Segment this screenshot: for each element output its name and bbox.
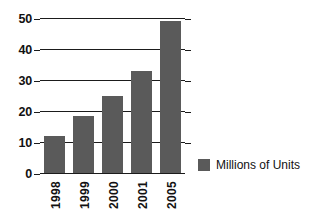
y-axis-tick-label: 50 [18,12,32,26]
bar-2001 [131,71,152,173]
y-axis-tick-label: 30 [18,74,32,88]
y-axis-tick-label: 20 [18,105,32,119]
y-axis-tick-stub [185,19,191,20]
x-axis-label-2005: 2005 [165,181,179,209]
legend-swatch-icon [198,159,210,171]
y-axis-tick-stub [185,143,191,144]
plot-area: 01020304050 19981999200020012005 [40,14,185,177]
y-axis-tick-stub [185,112,191,113]
bar-series [40,14,185,177]
x-axis-label-2001: 2001 [136,181,150,209]
bar-2005 [160,21,181,173]
bar-1998 [44,136,65,173]
legend: Millions of Units [198,158,300,172]
x-axis-label-1999: 1999 [78,181,92,209]
y-axis-tick-label: 10 [18,136,32,150]
y-axis-tick-label: 40 [18,43,32,57]
legend-label: Millions of Units [216,158,300,172]
x-axis-label-1998: 1998 [49,181,63,209]
bar-1999 [73,116,94,173]
x-axis-label-2000: 2000 [107,181,121,209]
y-axis-tick-label: 0 [25,167,32,181]
y-axis-tick-stub [185,50,191,51]
bar-chart: 01020304050 19981999200020012005 Million… [0,0,330,223]
bar-2000 [102,96,123,174]
y-axis-tick-stub [185,81,191,82]
